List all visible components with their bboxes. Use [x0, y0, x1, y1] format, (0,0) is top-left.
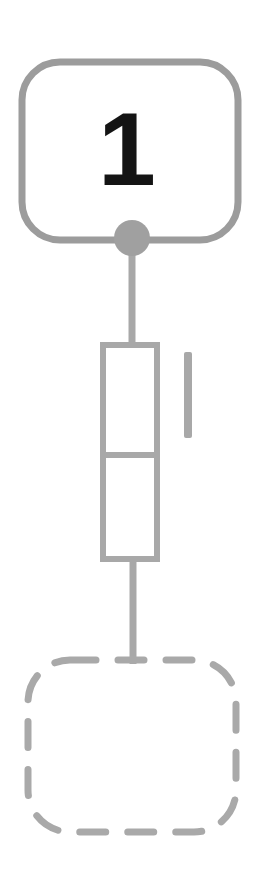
- tick-marker: [184, 352, 192, 438]
- connector-node[interactable]: [114, 220, 150, 256]
- numbered-block-label: 1: [98, 91, 156, 207]
- stacked-component[interactable]: [103, 345, 157, 559]
- diagram-canvas: 1: [0, 0, 260, 896]
- diagram-svg: 1: [0, 0, 260, 896]
